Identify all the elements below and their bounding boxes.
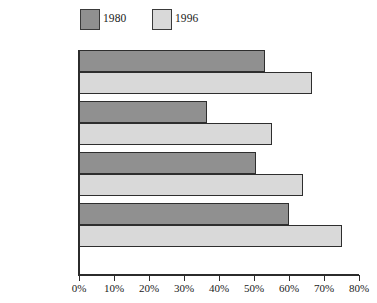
tick-mark-50% [254,275,255,281]
bar-1996-group-2 [79,174,303,196]
tick-label-70%: 70% [314,282,334,294]
legend-label-1980: 1980 [103,13,126,25]
bar-1980-group-2 [79,152,256,174]
bar-1996-group-0 [79,72,312,94]
chart-legend: 1980 1996 [0,0,377,44]
tick-mark-10% [114,275,115,281]
tick-mark-20% [149,275,150,281]
tick-label-80%: 80% [349,282,369,294]
tick-mark-60% [289,275,290,281]
legend-label-1996: 1996 [175,13,198,25]
tick-label-30%: 30% [174,282,194,294]
tick-mark-40% [219,275,220,281]
bar-1980-group-3 [79,203,289,225]
legend-swatch-1980 [80,9,100,30]
tick-label-60%: 60% [279,282,299,294]
tick-mark-0% [79,275,80,281]
legend-entry-1980: 1980 [80,8,126,30]
legend-entry-1996: 1996 [152,8,198,30]
bar-1996-group-3 [79,225,342,247]
tick-mark-70% [324,275,325,281]
horizontal-bar-chart: 1980 1996 0%10%20%30%40%50%60%70%80% Tot… [0,0,377,303]
tick-label-10%: 10% [104,282,124,294]
tick-label-40%: 40% [209,282,229,294]
bar-1980-group-0 [79,50,265,72]
bar-1980-group-1 [79,101,207,123]
tick-label-0%: 0% [72,282,87,294]
plot-area: 0%10%20%30%40%50%60%70%80% TotalWith you… [79,50,359,274]
tick-mark-30% [184,275,185,281]
bar-1996-group-1 [79,123,272,145]
tick-label-50%: 50% [244,282,264,294]
legend-swatch-1996 [152,9,172,30]
tick-label-20%: 20% [139,282,159,294]
tick-mark-80% [359,275,360,281]
